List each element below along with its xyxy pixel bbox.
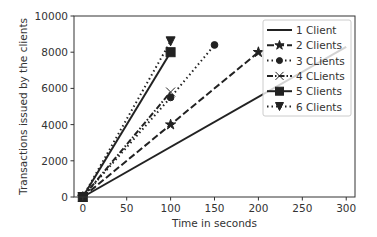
series-2	[78, 47, 264, 202]
x-tick-label: 200	[248, 202, 268, 214]
y-tick-label: 10000	[35, 10, 68, 22]
y-tick-label: 8000	[41, 46, 68, 58]
data-marker	[211, 42, 218, 49]
x-axis-label: Time in seconds	[171, 217, 257, 229]
y-tick-label: 2000	[41, 155, 68, 167]
data-marker	[166, 48, 175, 57]
series-6	[78, 37, 175, 202]
y-tick-label: 4000	[41, 119, 68, 131]
data-marker	[277, 58, 283, 64]
legend-label: 4 CLients	[296, 70, 345, 82]
x-tick-label: 250	[292, 202, 312, 214]
data-marker	[166, 119, 176, 129]
line-chart: 0501001502002503000200040006000800010000…	[0, 0, 377, 237]
data-marker	[276, 87, 284, 95]
x-tick-label: 300	[336, 202, 356, 214]
legend-label: 5 Clients	[296, 85, 342, 97]
y-axis-label: Transactions issued by the clients	[17, 18, 29, 196]
data-marker	[166, 37, 175, 46]
legend-label: 2 Clients	[296, 39, 342, 51]
y-tick-label: 0	[61, 191, 68, 203]
x-tick-label: 150	[204, 202, 224, 214]
legend-label: 3 CLients	[296, 55, 345, 67]
series-5	[78, 48, 175, 202]
legend-label: 1 Client	[296, 24, 336, 36]
x-tick-label: 0	[79, 202, 86, 214]
y-tick-label: 6000	[41, 82, 68, 94]
x-tick-label: 100	[161, 202, 181, 214]
legend-label: 6 Clients	[296, 101, 342, 113]
x-tick-label: 50	[120, 202, 133, 214]
series-4	[78, 88, 175, 202]
